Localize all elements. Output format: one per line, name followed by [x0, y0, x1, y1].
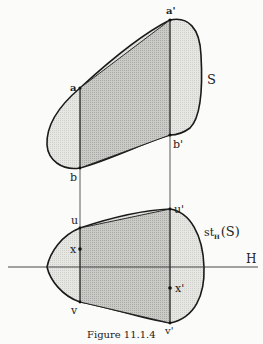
point-u-prime	[169, 208, 172, 211]
point-a	[78, 86, 81, 89]
label-v-prime: v'	[164, 325, 173, 336]
point-a-prime	[168, 18, 171, 21]
label-u-prime: u'	[174, 203, 184, 216]
label-v: v	[70, 304, 78, 317]
point-u	[79, 227, 82, 230]
label-x-prime: x'	[175, 282, 184, 295]
point-v	[79, 301, 82, 304]
steiner-symmetrization-diagram: a a' S b' b u u' x x' v v' stH(S) H Figu…	[0, 0, 263, 344]
figure-11-1-4: a a' S b' b u u' x x' v v' stH(S) H Figu…	[0, 0, 263, 344]
inner-quadrilateral-upper	[80, 20, 170, 168]
label-st-h-s: stH(S)	[204, 224, 240, 240]
label-u: u	[71, 214, 78, 227]
label-a-prime: a'	[166, 5, 176, 16]
label-st-argument: (S)	[221, 224, 240, 239]
point-v-prime	[169, 322, 172, 325]
label-b-prime: b'	[173, 138, 183, 151]
point-x-prime	[168, 286, 172, 290]
label-h: H	[246, 252, 256, 266]
label-x: x	[70, 243, 77, 256]
point-x	[78, 247, 82, 251]
point-b-prime	[168, 133, 171, 136]
label-b: b	[70, 171, 77, 184]
point-b	[79, 167, 82, 170]
figure-caption: Figure 11.1.4	[87, 329, 156, 340]
inner-quadrilateral-lower	[80, 209, 170, 323]
label-st: st	[204, 226, 215, 239]
label-a: a	[70, 82, 77, 93]
label-st-subscript: H	[214, 233, 220, 240]
label-s: S	[207, 72, 216, 87]
